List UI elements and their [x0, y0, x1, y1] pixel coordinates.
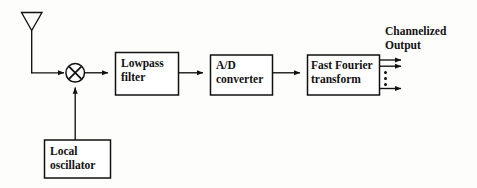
channelized-output-arrows — [380, 60, 402, 89]
fft-label: Fast Fouriertransform — [311, 59, 373, 86]
block-diagram-canvas: Lowpassfilter A/Dconverter Fast Fouriert… — [0, 0, 477, 188]
ad-converter-label: A/Dconverter — [216, 59, 263, 86]
lowpass-filter-label-line2: filter — [121, 71, 145, 83]
lowpass-filter-label: Lowpassfilter — [121, 57, 164, 84]
channelized-output-line1: Channelized — [385, 25, 446, 37]
lowpass-filter-label-line1: Lowpass — [121, 57, 164, 69]
channelized-output-line2: Output — [385, 39, 421, 51]
fft-label-line2: transform — [311, 73, 361, 85]
local-oscillator-label-line2: oscillator — [50, 159, 95, 171]
channelized-output-label: ChannelizedOutput — [385, 24, 446, 52]
fft-label-line1: Fast Fourier — [311, 59, 373, 71]
mixer-symbol — [66, 64, 85, 83]
local-oscillator-label-line1: Local — [50, 145, 77, 157]
output-ellipsis-icon — [384, 71, 388, 89]
ad-converter-label-line1: A/D — [216, 59, 236, 71]
local-oscillator-label: Localoscillator — [50, 145, 95, 172]
ad-converter-label-line2: converter — [216, 73, 263, 85]
antenna-icon — [22, 13, 43, 74]
